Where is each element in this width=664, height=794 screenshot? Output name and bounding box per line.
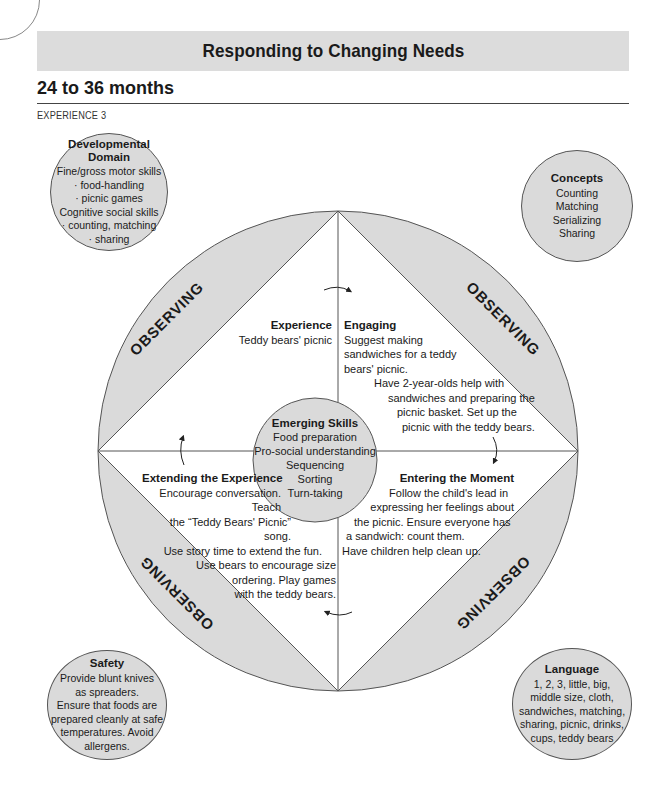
entering-line: Follow the child's lead in <box>342 486 514 501</box>
engaging-line: picnic basket. Set up the <box>344 405 574 420</box>
developmental-domain-bubble: Developmental Domain Fine/gross motor sk… <box>50 133 168 251</box>
safety-line: prepared cleanly at safe <box>51 713 163 727</box>
concepts-line: Counting <box>556 187 598 201</box>
emerging-skills-heading: Emerging Skills <box>253 416 377 430</box>
entering-line: a sandwich: count them. <box>342 529 514 544</box>
entering-line: the picnic. Ensure everyone has <box>342 515 514 530</box>
extending-line: Encourage conversation. Teach <box>142 486 336 515</box>
engaging-line: sandwiches and preparing the <box>344 391 574 406</box>
entering-line: Have children help clean up. <box>342 544 514 559</box>
engaging-block: Engaging Suggest making sandwiches for a… <box>344 318 574 434</box>
extending-line: Use story time to extend the fun. <box>142 544 336 559</box>
experience-block: Experience Teddy bears' picnic <box>230 318 332 347</box>
extending-line: with the teddy bears. <box>142 587 336 602</box>
experience-heading: Experience <box>230 318 332 333</box>
concepts-heading: Concepts <box>551 172 603 185</box>
extending-heading: Extending the Experience <box>142 471 336 486</box>
domain-line: · counting, matching <box>62 219 157 233</box>
developmental-domain-heading-2: Domain <box>88 151 130 164</box>
engaging-line: Have 2-year-olds help with <box>344 376 574 391</box>
language-bubble: Language 1, 2, 3, little, big, middle si… <box>512 648 632 760</box>
safety-line: allergens. <box>84 740 130 754</box>
language-line: sharing, picnic, drinks, <box>520 718 624 732</box>
domain-line: · picnic games <box>75 192 143 206</box>
concepts-line: Serializing <box>553 214 601 228</box>
safety-bubble: Safety Provide blunt knives as spreaders… <box>47 650 167 760</box>
domain-line: · sharing <box>89 233 130 247</box>
entering-line: expressing her feelings about <box>342 500 514 515</box>
safety-line: temperatures. Avoid <box>60 726 153 740</box>
safety-line: as spreaders. <box>75 686 139 700</box>
safety-line: Ensure that foods are <box>57 699 157 713</box>
language-line: 1, 2, 3, little, big, <box>534 678 610 692</box>
emerging-skill-item: Pro-social understanding <box>253 444 377 458</box>
concepts-line: Matching <box>556 200 599 214</box>
language-heading: Language <box>545 663 599 676</box>
domain-line: · food-handling <box>74 179 144 193</box>
engaging-line: bears' picnic. <box>344 362 574 377</box>
domain-line: Fine/gross motor skills <box>57 165 161 179</box>
extending-line: the “Teddy Bears' Picnic” song. <box>142 515 336 544</box>
domain-line: Cognitive social skills <box>59 206 158 220</box>
developmental-domain-heading: Developmental <box>68 138 150 151</box>
emerging-skill-item: Food preparation <box>253 430 377 444</box>
concepts-bubble: Concepts Counting Matching Serializing S… <box>521 150 633 262</box>
language-line: middle size, cloth, <box>530 691 613 705</box>
language-line: cups, teddy bears <box>531 732 614 746</box>
safety-heading: Safety <box>90 657 125 670</box>
entering-block: Entering the Moment Follow the child's l… <box>342 471 514 558</box>
entering-heading: Entering the Moment <box>342 471 514 486</box>
language-line: sandwiches, matching, <box>519 705 625 719</box>
extending-block: Extending the Experience Encourage conve… <box>142 471 336 602</box>
engaging-line: Suggest making <box>344 333 574 348</box>
engaging-heading: Engaging <box>344 318 574 333</box>
emerging-skill-item: Sequencing <box>253 458 377 472</box>
engaging-line: picnic with the teddy bears. <box>344 420 574 435</box>
experience-text: Teddy bears' picnic <box>230 333 332 348</box>
extending-line: Use bears to encourage size <box>142 558 336 573</box>
extending-line: ordering. Play games <box>142 573 336 588</box>
concepts-line: Sharing <box>559 227 595 241</box>
safety-line: Provide blunt knives <box>60 672 154 686</box>
engaging-line: sandwiches for a teddy <box>344 347 574 362</box>
